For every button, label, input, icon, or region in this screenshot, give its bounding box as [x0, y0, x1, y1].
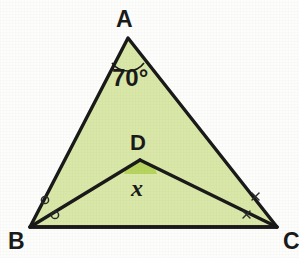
vertex-label-c: C	[283, 230, 299, 253]
vertex-label-b: B	[8, 230, 25, 253]
angle-value-x: x	[131, 176, 143, 200]
vertex-label-a: A	[116, 8, 133, 31]
geometry-figure	[0, 0, 299, 258]
diagram-canvas: A B C D 70° x	[0, 0, 299, 258]
triangle-abc	[30, 38, 277, 227]
angle-value-a: 70°	[112, 66, 148, 90]
vertex-label-d: D	[130, 132, 146, 154]
